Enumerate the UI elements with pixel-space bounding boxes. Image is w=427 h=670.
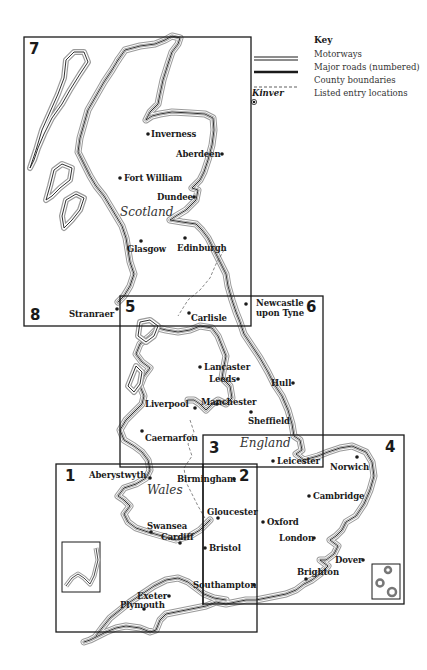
box-number-5[interactable]: 5 [125, 298, 135, 316]
key-item-major-roads: Major roads (numbered) [300, 60, 420, 73]
place-swansea: Swansea [147, 521, 187, 531]
place-leeds: Leeds [209, 374, 236, 384]
place-plymouth: Plymouth [120, 600, 165, 610]
place-cambridge: Cambridge [313, 491, 364, 501]
place-liverpool: Liverpool [145, 399, 189, 409]
key-label: Motorways [314, 49, 362, 59]
region-scotland: Scotland [120, 205, 173, 219]
box-number-8[interactable]: 8 [30, 306, 40, 324]
key-item-county-boundaries: County boundaries [300, 73, 420, 86]
region-england: England [240, 436, 291, 450]
place-southampton: Southampton [193, 580, 256, 590]
place-london: London [279, 533, 314, 543]
place-upon-tyne: upon Tyne [256, 308, 304, 318]
box-number-7[interactable]: 7 [29, 40, 39, 58]
place-carlisle: Carlisle [191, 313, 227, 323]
key-label: County boundaries [314, 75, 396, 85]
place-bristol: Bristol [209, 543, 241, 553]
place-glasgow: Glasgow [127, 244, 166, 254]
key-title: Key [314, 35, 420, 45]
place-oxford: Oxford [267, 517, 299, 527]
place-aberdeen: Aberdeen [176, 149, 221, 159]
place-aberystwyth: Aberystwyth [89, 470, 146, 480]
place-dundee: Dundee [157, 192, 193, 202]
place-lancaster: Lancaster [204, 362, 250, 372]
place-gloucester: Gloucester [207, 507, 258, 517]
place-fort-william: Fort William [124, 173, 182, 183]
place-caernarfon: Caernarfon [145, 433, 198, 443]
key-label: Major roads (numbered) [314, 62, 420, 72]
place-leicester: Leicester [277, 456, 320, 466]
place-birmingham: Birmingham [177, 474, 236, 484]
key-label: Listed entry locations [314, 88, 408, 98]
place-cardiff: Cardiff [161, 532, 194, 542]
place-norwich: Norwich [330, 462, 369, 472]
key-item-motorways: Motorways [300, 47, 420, 60]
place-sheffield: Sheffield [248, 416, 290, 426]
key-sample-kinver: Kinver [252, 88, 284, 98]
place-manchester: Manchester [201, 397, 256, 407]
place-hull: Hull [271, 378, 291, 388]
place-edinburgh: Edinburgh [177, 243, 227, 253]
box-number-3[interactable]: 3 [209, 439, 219, 457]
map-canvas [0, 0, 427, 670]
box-number-6[interactable]: 6 [306, 298, 316, 316]
key-item-listed-entries: Kinver Listed entry locations [300, 86, 420, 99]
place-inverness: Inverness [151, 129, 196, 139]
place-dover: Dover [335, 555, 362, 565]
place-brighton: Brighton [297, 567, 339, 577]
place-newcastle: Newcastle [256, 298, 304, 308]
place-stranraer: Stranraer [69, 309, 114, 319]
box-number-2[interactable]: 2 [239, 467, 249, 485]
box-number-4[interactable]: 4 [385, 438, 395, 456]
box-number-1[interactable]: 1 [65, 467, 75, 485]
map-key: Key Motorways Major roads (numbered) Cou… [300, 35, 420, 99]
region-wales: Wales [147, 483, 183, 497]
